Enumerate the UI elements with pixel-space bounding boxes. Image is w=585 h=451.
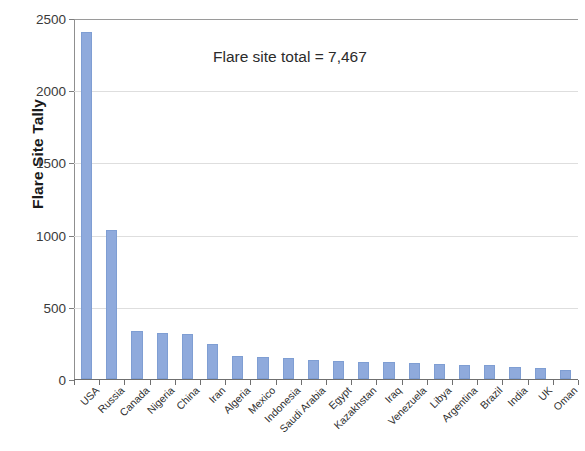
- plot-top-border: [74, 19, 578, 20]
- x-axis-tick: [200, 380, 201, 385]
- plot-area: [74, 19, 578, 380]
- bar: [106, 230, 117, 379]
- x-axis-tick-label: Nigeria: [145, 384, 177, 416]
- x-axis-tick-label: Algeria: [221, 384, 253, 416]
- x-axis-tick: [276, 380, 277, 385]
- bar: [560, 370, 571, 379]
- bar: [459, 365, 470, 379]
- y-axis-tick-label: 0: [6, 373, 66, 388]
- bar: [283, 358, 294, 379]
- x-axis-tick: [250, 380, 251, 385]
- bar: [409, 363, 420, 379]
- x-axis-tick: [553, 380, 554, 385]
- bar: [535, 368, 546, 379]
- x-axis-tick: [301, 380, 302, 385]
- y-axis-tick-label: 2500: [6, 12, 66, 27]
- bar: [509, 367, 520, 379]
- y-axis-tick-label: 1500: [6, 156, 66, 171]
- x-axis-tick: [528, 380, 529, 385]
- y-axis-tick-label: 1000: [6, 228, 66, 243]
- x-axis-tick: [326, 380, 327, 385]
- x-axis-tick-label: India: [505, 384, 530, 409]
- x-axis-tick-label: Iran: [206, 384, 227, 405]
- y-axis-tick-label: 500: [6, 300, 66, 315]
- y-axis-tick: [69, 91, 74, 92]
- y-axis-tick: [69, 19, 74, 20]
- x-axis-tick: [99, 380, 100, 385]
- gridline: [74, 236, 578, 237]
- bar: [232, 356, 243, 379]
- y-axis-tick: [69, 163, 74, 164]
- gridline: [74, 308, 578, 309]
- x-axis-tick: [578, 380, 579, 385]
- bar: [182, 334, 193, 379]
- bar: [131, 331, 142, 379]
- y-axis-tick: [69, 236, 74, 237]
- x-axis-tick: [150, 380, 151, 385]
- gridline: [74, 91, 578, 92]
- x-axis-tick: [427, 380, 428, 385]
- x-axis-tick: [376, 380, 377, 385]
- flare-site-total-annotation: Flare site total = 7,467: [213, 48, 367, 66]
- x-axis-tick-label: Brazil: [477, 384, 504, 411]
- y-axis-tick-label: 2000: [6, 84, 66, 99]
- bar: [308, 360, 319, 379]
- y-axis-tick: [69, 308, 74, 309]
- bar: [484, 365, 495, 379]
- x-axis-tick: [351, 380, 352, 385]
- x-axis-tick-label: China: [174, 384, 202, 412]
- bar: [358, 362, 369, 379]
- bar: [383, 362, 394, 379]
- bar: [333, 361, 344, 379]
- x-axis-tick-label: UK: [536, 384, 555, 403]
- x-axis-tick: [225, 380, 226, 385]
- x-axis-tick: [477, 380, 478, 385]
- gridline: [74, 163, 578, 164]
- flare-site-tally-bar-chart: Flare Site Tally 05001000150020002500 US…: [0, 0, 585, 451]
- bar: [81, 32, 92, 379]
- bar: [157, 333, 168, 379]
- x-axis-tick: [124, 380, 125, 385]
- x-axis-tick: [502, 380, 503, 385]
- bar: [207, 344, 218, 379]
- x-axis-tick: [74, 380, 75, 385]
- x-axis-tick: [402, 380, 403, 385]
- y-axis-line: [74, 19, 75, 380]
- bar: [257, 357, 268, 379]
- x-axis-tick: [452, 380, 453, 385]
- x-axis-tick-label: Oman: [551, 384, 580, 413]
- x-axis-tick: [175, 380, 176, 385]
- bar: [434, 364, 445, 379]
